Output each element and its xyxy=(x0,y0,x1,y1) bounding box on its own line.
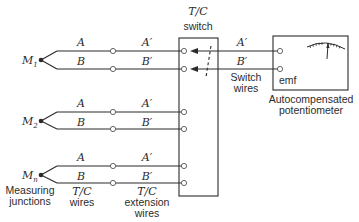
switch-terminal-a xyxy=(181,109,186,114)
connector-b xyxy=(110,66,115,71)
potentiometer-terminal-a xyxy=(277,48,282,53)
wire-b-label: B xyxy=(76,55,85,68)
junction-row-mn: Mn A B A′ B′ xyxy=(21,151,187,186)
meter-dial-icon xyxy=(307,42,345,59)
autocompensated-potentiometer: emf Autocompensated potentiometer xyxy=(269,36,354,116)
ext-b-label: B′ xyxy=(141,170,153,183)
switch-wire-a-label: A′ xyxy=(236,36,248,49)
switch-title-line2: switch xyxy=(183,20,212,32)
ext-b-label: B′ xyxy=(141,116,153,129)
arrowhead-icon xyxy=(190,66,198,72)
junction-fork xyxy=(41,51,57,69)
switch-terminal-b xyxy=(181,180,186,185)
switch-terminal-a xyxy=(181,163,186,168)
potentiometer-terminal-b xyxy=(277,66,282,71)
bottom-labels: Measuring junctions T/C wires T/C extens… xyxy=(5,184,169,219)
emf-label: emf xyxy=(279,74,297,86)
junction-row-m2: M2 A B A′ B′ xyxy=(21,97,187,132)
switch-wires: A′ B′ Switch wires xyxy=(190,36,280,94)
ext-a-label: A′ xyxy=(141,36,153,49)
ext-wires-label-3: wires xyxy=(134,207,160,219)
connector-a xyxy=(110,163,115,168)
junction-fork xyxy=(41,166,57,183)
connector-b xyxy=(110,126,115,131)
wire-b-label: B xyxy=(76,170,85,183)
switch-terminal-b xyxy=(181,66,186,71)
ext-b-label: B′ xyxy=(141,55,153,68)
switch-box xyxy=(179,38,218,196)
junction-row-m1: M1 A B A′ B′ xyxy=(21,36,187,72)
switch-terminal-a xyxy=(181,48,186,53)
arrowhead-icon xyxy=(190,48,198,54)
tc-wires-label-2: wires xyxy=(69,196,95,208)
ext-a-label: A′ xyxy=(141,151,153,164)
connector-a xyxy=(110,48,115,53)
junction-label: M2 xyxy=(21,115,38,130)
thermocouple-switch-diagram: T/C switch M1 A B A′ B′ M2 A B A′ B′ xyxy=(0,0,359,222)
connector-a xyxy=(110,109,115,114)
wire-a-label: A xyxy=(76,97,85,110)
junction-label: Mn xyxy=(21,169,38,184)
ext-a-label: A′ xyxy=(141,97,153,110)
switch-wires-label-2: wires xyxy=(233,82,259,94)
switch-terminal-b xyxy=(181,126,186,131)
switch-title-line1: T/C xyxy=(188,5,208,18)
connector-b xyxy=(110,180,115,185)
wire-a-label: A xyxy=(76,151,85,164)
measuring-junctions-label-2: junctions xyxy=(8,195,50,207)
junction-fork xyxy=(41,112,57,129)
wire-b-label: B xyxy=(76,116,85,129)
junction-label: M1 xyxy=(21,54,38,69)
switch-wire-b-label: B′ xyxy=(236,55,248,68)
potentiometer-caption-2: potentiometer xyxy=(279,104,344,116)
wire-a-label: A xyxy=(76,36,85,49)
